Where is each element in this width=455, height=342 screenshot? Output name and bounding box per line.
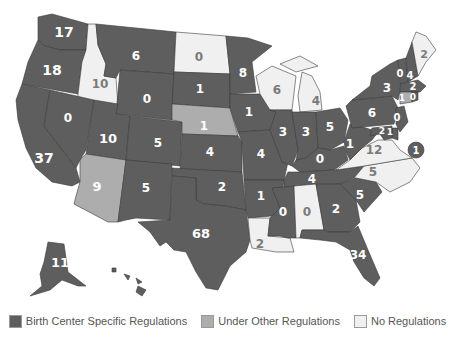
legend-swatch-none [354,315,367,328]
state-value-ut: 10 [99,131,117,146]
state-value-sc: 5 [356,188,364,202]
state-value-wi: 6 [273,83,281,97]
state-value-de: 1 [387,127,393,137]
state-value-mt: 6 [132,49,140,63]
state-value-pa: 6 [368,106,376,120]
state-value-ia: 1 [245,105,253,119]
state-value-al: 0 [303,205,311,219]
state-value-wa: 17 [54,24,73,40]
state-value-oh: 5 [326,120,334,134]
legend-label-none: No Regulations [371,315,446,327]
state-value-ok: 2 [218,180,226,194]
state-value-ct: 1 [399,93,405,103]
state-value-mi: 4 [312,94,320,108]
state-value-mo: 4 [257,147,265,161]
state-value-md: 2 [379,126,385,136]
state-value-co: 5 [154,136,162,150]
legend-item-specific: Birth Center Specific Regulations [9,315,187,328]
state-florida[interactable] [300,226,380,286]
state-value-nm: 5 [142,181,150,195]
state-value-wv: 1 [346,137,354,151]
state-value-ri: 0 [410,92,416,102]
state-value-la: 2 [256,237,264,251]
state-value-tx: 68 [192,226,210,241]
legend-swatch-other [201,315,214,328]
legend-label-other: Under Other Regulations [218,315,340,327]
state-value-ca: 37 [34,150,53,166]
state-value-wy: 0 [143,92,151,106]
state-value-ak: 11 [51,255,69,270]
state-value-tn: 4 [308,172,316,186]
legend-swatch-specific [9,315,22,328]
state-value-nj: 0 [394,112,401,123]
state-value-in: 3 [302,125,310,139]
state-value-nc: 5 [369,165,377,179]
state-value-az: 9 [92,179,101,194]
state-value-me: 2 [420,48,428,61]
state-new-york[interactable] [352,60,400,100]
state-value-il: 3 [279,125,287,139]
state-value-ny: 3 [383,81,391,95]
state-hawaii[interactable] [112,268,146,296]
legend-item-other: Under Other Regulations [201,315,340,328]
state-value-mn: 8 [239,66,247,80]
state-value-ma: 2 [410,81,417,92]
state-value-ks: 4 [206,145,214,159]
us-choropleth-map: 1718371006010955011426881412634350400234… [0,0,455,300]
state-value-or: 18 [42,62,61,78]
state-value-fl: 34 [350,248,367,262]
state-value-nd: 0 [195,50,203,64]
state-value-ga: 2 [332,202,340,216]
state-value-ms: 0 [279,205,287,219]
legend-label-specific: Birth Center Specific Regulations [26,315,187,327]
state-value-ky: 0 [316,152,324,166]
state-value-nv: 0 [64,111,72,125]
state-value-ar: 1 [257,189,265,203]
state-value-nh: 4 [407,70,414,81]
state-value-id: 10 [92,77,109,91]
state-value-ne: 1 [200,119,208,133]
state-value-sd: 1 [196,82,204,96]
legend: Birth Center Specific Regulations Under … [0,309,455,333]
state-value-vt: 0 [397,68,404,79]
legend-item-none: No Regulations [354,315,446,328]
state-value-dc: 1 [413,145,420,156]
state-value-va: 12 [366,143,383,157]
